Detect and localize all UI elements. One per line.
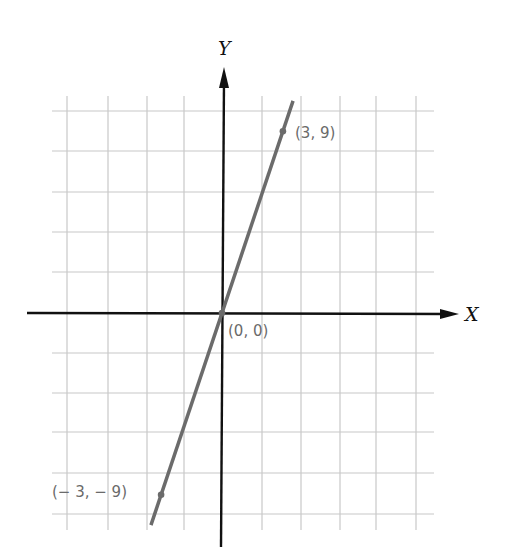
coordinate-plane: X Y (3, 9) (0, 0) (− 3, − 9) (0, 0, 506, 560)
data-point-marker (219, 310, 226, 317)
x-axis (27, 313, 448, 314)
x-axis-label: X (463, 303, 480, 325)
data-point-marker (158, 492, 165, 499)
point-label-origin: (0, 0) (228, 322, 268, 340)
x-axis-arrow-icon (440, 309, 459, 319)
y-axis-arrow-icon (219, 67, 229, 88)
y-axis-label: Y (218, 37, 233, 59)
data-point-marker (280, 128, 287, 135)
point-label-3-9: (3, 9) (295, 124, 335, 142)
point-label-neg3-neg9: (− 3, − 9) (52, 483, 127, 501)
axes (27, 67, 459, 547)
